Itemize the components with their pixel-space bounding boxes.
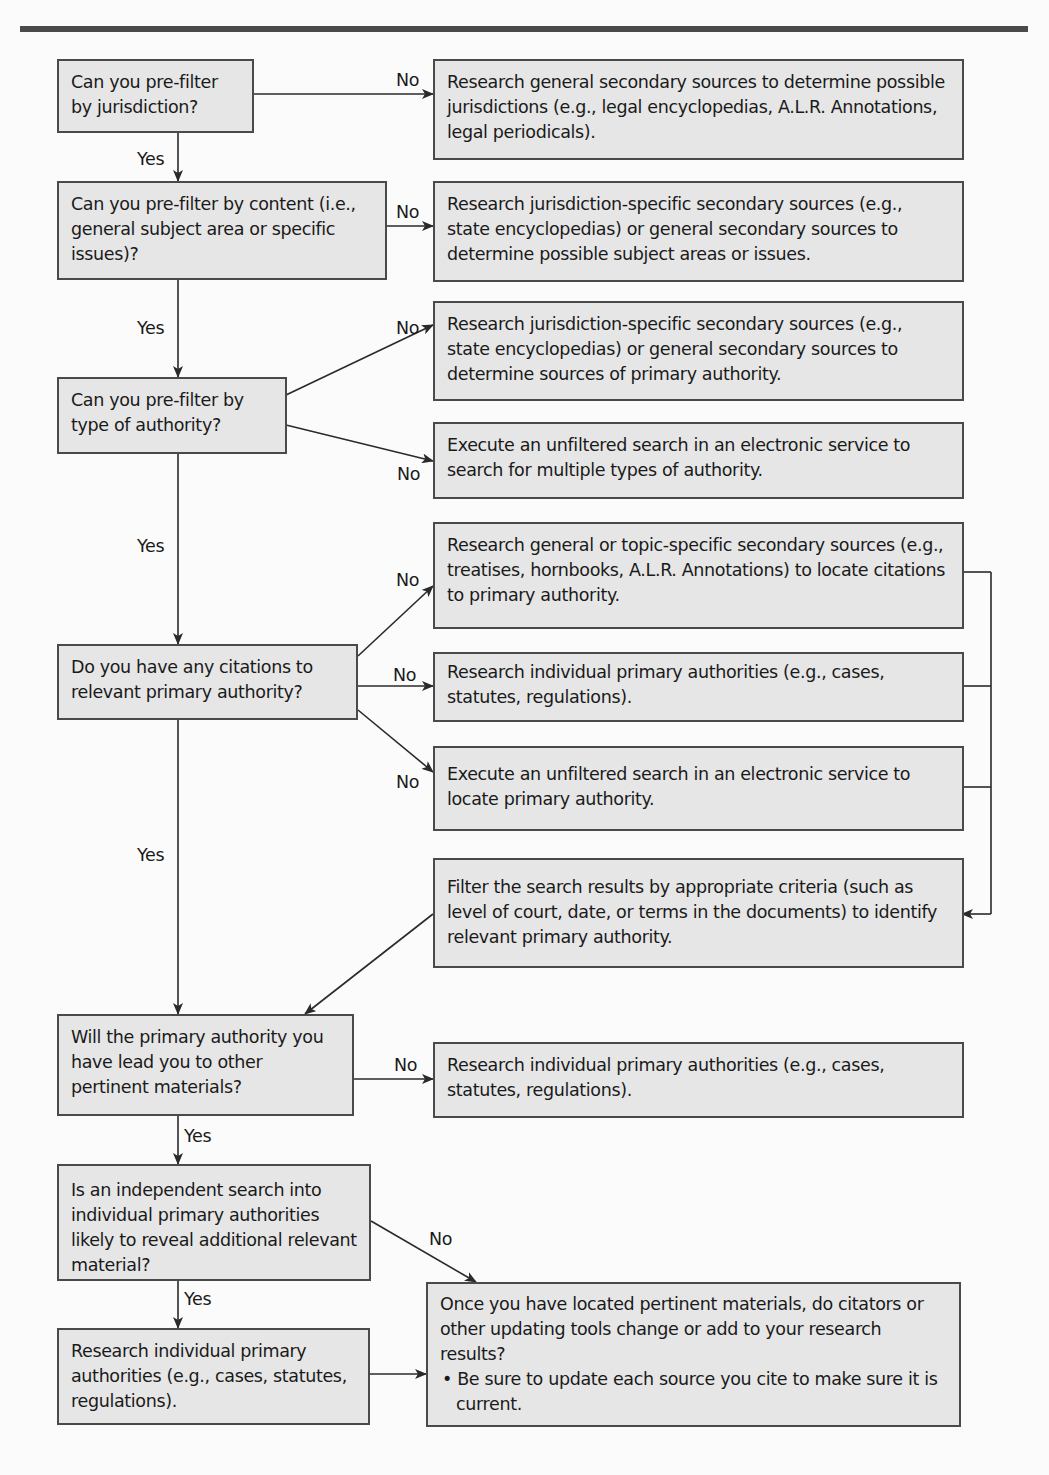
edge-label-yes: Yes [137, 318, 164, 338]
action-box-general-secondary: Research general secondary sources to de… [433, 59, 964, 160]
edge-label-no: No [397, 464, 420, 484]
question-box-content: Can you pre-filter by content (i.e., gen… [57, 181, 387, 280]
edge-label-no: No [393, 665, 416, 685]
question-box-citations: Do you have any citations to relevant pr… [57, 644, 358, 720]
edge-label-no: No [396, 202, 419, 222]
action-box-filter-results: Filter the search results by appropriate… [433, 858, 964, 968]
edge-label-no: No [396, 570, 419, 590]
action-box-unfiltered-multiple: Execute an unfiltered search in an elect… [433, 422, 964, 499]
action-text: Filter the search results by appropriate… [447, 877, 937, 947]
question-text: Can you pre-filter by content (i.e., gen… [71, 194, 356, 264]
question-box-type-of-authority: Can you pre-filter by type of authority? [57, 377, 287, 454]
action-text: Execute an unfiltered search in an elect… [447, 435, 910, 480]
question-text: Can you pre-filter by type of authority? [71, 390, 244, 435]
action-box-citators: Once you have located pertinent material… [426, 1282, 961, 1427]
action-text: Research individual primary authorities … [447, 662, 884, 707]
edge-label-no: No [396, 70, 419, 90]
edge-label-yes: Yes [137, 536, 164, 556]
question-text: Will the primary authority you have lead… [71, 1027, 323, 1097]
action-text: Research jurisdiction-specific secondary… [447, 314, 902, 384]
action-text: Research individual primary authorities … [447, 1055, 884, 1100]
action-text: Research jurisdiction-specific secondary… [447, 194, 902, 264]
action-box-unfiltered-primary: Execute an unfiltered search in an elect… [433, 746, 964, 831]
edge-label-yes: Yes [184, 1289, 211, 1309]
question-text: Is an independent search into individual… [71, 1180, 357, 1275]
edge-label-no: No [429, 1229, 452, 1249]
action-text: Execute an unfiltered search in an elect… [447, 764, 910, 809]
action-box-individual-primary-2: Research individual primary authorities … [433, 1042, 964, 1118]
action-box-individual-primary-1: Research individual primary authorities … [433, 652, 964, 722]
action-text: Research individual primary authorities … [71, 1341, 347, 1411]
edge-label-no: No [396, 772, 419, 792]
action-text: Once you have located pertinent material… [440, 1294, 924, 1364]
question-box-lead-to-materials: Will the primary authority you have lead… [57, 1014, 354, 1116]
edge-label-no: No [396, 318, 419, 338]
edge-label-yes: Yes [137, 149, 164, 169]
action-text: Research general secondary sources to de… [447, 72, 945, 142]
question-box-independent-search: Is an independent search into individual… [57, 1164, 371, 1281]
action-box-topic-secondary: Research general or topic-specific secon… [433, 522, 964, 629]
question-box-jurisdiction: Can you pre-filter by jurisdiction? [57, 59, 254, 133]
edge-label-no: No [394, 1055, 417, 1075]
action-box-jurisdiction-secondary-primary: Research jurisdiction-specific secondary… [433, 301, 964, 401]
action-bullet: • Be sure to update each source you cite… [440, 1367, 947, 1417]
edge-label-yes: Yes [137, 845, 164, 865]
edge-label-yes: Yes [184, 1126, 211, 1146]
action-box-jurisdiction-secondary-subjects: Research jurisdiction-specific secondary… [433, 181, 964, 282]
question-text: Can you pre-filter by jurisdiction? [71, 72, 218, 117]
question-text: Do you have any citations to relevant pr… [71, 657, 313, 702]
action-box-individual-primary-3: Research individual primary authorities … [57, 1328, 370, 1425]
action-text: Research general or topic-specific secon… [447, 535, 945, 605]
